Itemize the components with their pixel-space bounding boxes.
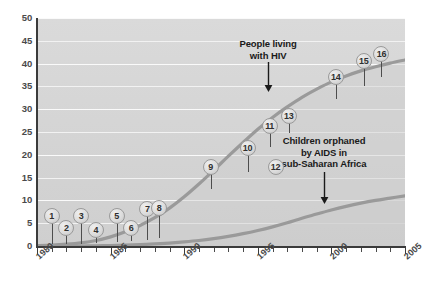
marker-bubble[interactable]: 11 xyxy=(262,118,278,134)
marker-bubble[interactable]: 13 xyxy=(281,108,297,124)
marker-stem xyxy=(364,68,365,85)
marker-bubble[interactable]: 4 xyxy=(88,222,104,238)
x-tick-label: 2005 xyxy=(402,241,424,262)
x-tick xyxy=(376,248,377,252)
x-tick xyxy=(361,248,362,252)
orphans-callout-arrow-icon xyxy=(319,172,330,204)
x-tick xyxy=(228,248,229,252)
plot-area: People livingwith HIVChildren orphanedby… xyxy=(37,18,405,246)
x-tick xyxy=(140,248,141,252)
marker-bubble[interactable]: 8 xyxy=(151,200,167,216)
callout-line: with HIV xyxy=(239,50,296,62)
marker-stem xyxy=(147,216,148,240)
x-axis-line xyxy=(36,246,406,248)
marker-bubble[interactable]: 1 xyxy=(44,208,60,224)
marker-bubble[interactable]: 10 xyxy=(240,140,256,156)
marker-bubble[interactable]: 3 xyxy=(73,208,89,224)
callout-line: Children orphaned xyxy=(282,135,367,147)
marker-bubble[interactable]: 15 xyxy=(356,53,372,69)
marker-stem xyxy=(52,223,53,244)
y-tick-label: 35 xyxy=(10,81,32,90)
orphans-callout: Children orphanedby AIDS insub-Saharan A… xyxy=(282,135,367,170)
marker-bubble[interactable]: 9 xyxy=(203,159,219,175)
x-tick xyxy=(170,248,171,252)
x-tick xyxy=(66,248,67,252)
callout-line: People living xyxy=(239,38,296,50)
y-axis-line xyxy=(36,18,38,247)
marker-stem xyxy=(381,61,382,77)
marker-bubble[interactable]: 12 xyxy=(268,159,284,175)
marker-stem xyxy=(248,155,249,173)
x-tick xyxy=(81,248,82,252)
series-curves xyxy=(37,18,405,246)
y-tick-label: 5 xyxy=(10,218,32,227)
y-tick-label: 50 xyxy=(10,13,32,22)
marker-stem xyxy=(117,223,118,242)
marker-bubble[interactable]: 14 xyxy=(328,69,344,85)
marker-bubble[interactable]: 6 xyxy=(123,220,139,236)
x-tick xyxy=(390,248,391,252)
x-tick xyxy=(214,248,215,252)
y-tick-label: 10 xyxy=(10,195,32,204)
x-tick xyxy=(243,248,244,252)
marker-bubble[interactable]: 5 xyxy=(109,208,125,224)
hiv-callout: People livingwith HIV xyxy=(239,38,296,61)
y-tick-label: 45 xyxy=(10,36,32,45)
marker-stem xyxy=(81,223,82,244)
y-tick-label: 30 xyxy=(10,104,32,113)
y-tick-label: 20 xyxy=(10,150,32,159)
marker-stem xyxy=(336,84,337,99)
marker-stem xyxy=(66,235,67,244)
x-tick xyxy=(317,248,318,252)
x-tick xyxy=(302,248,303,252)
x-tick xyxy=(96,248,97,252)
x-tick xyxy=(155,248,156,252)
x-tick xyxy=(287,248,288,252)
y-axis-labels: 05101520253035404550 xyxy=(6,0,32,287)
y-tick-label: 0 xyxy=(10,241,32,250)
marker-stem xyxy=(270,133,271,147)
marker-stem xyxy=(211,174,212,189)
marker-stem xyxy=(289,123,290,133)
hiv-callout-arrow-icon xyxy=(263,62,274,92)
y-tick-label: 15 xyxy=(10,173,32,182)
y-tick-label: 40 xyxy=(10,59,32,68)
callout-line: sub-Saharan Africa xyxy=(282,158,367,170)
marker-stem xyxy=(131,235,132,242)
callout-line: by AIDS in xyxy=(282,147,367,159)
y-tick-label: 25 xyxy=(10,127,32,136)
marker-stem xyxy=(159,215,160,239)
